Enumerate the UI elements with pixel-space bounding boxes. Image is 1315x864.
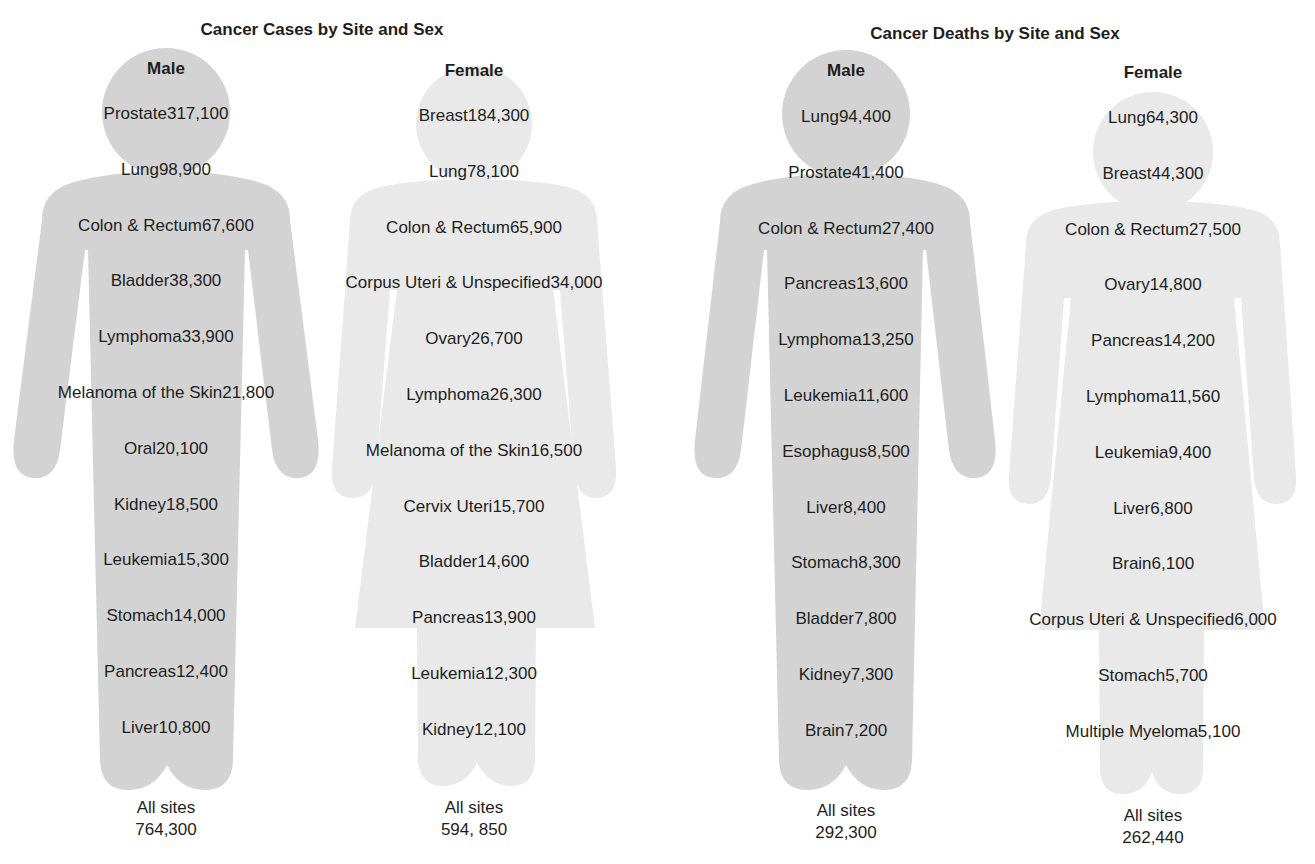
- cases-female-label: Female: [445, 61, 504, 81]
- site-value: 15,700: [492, 497, 544, 516]
- site-label: Kidney: [799, 665, 851, 684]
- site-value: 27,400: [882, 219, 934, 238]
- site-label: Bladder: [795, 609, 854, 628]
- list-item: Colon & Rectum67,600: [58, 215, 274, 271]
- site-label: Prostate: [788, 163, 851, 182]
- site-value: 41,400: [852, 163, 904, 182]
- site-label: Ovary: [425, 329, 470, 348]
- list-item: Leukemia9,400: [1029, 442, 1277, 498]
- deaths-chart-title: Cancer Deaths by Site and Sex: [870, 24, 1119, 44]
- site-label: Kidney: [422, 720, 474, 739]
- list-item: Esophagus8,500: [758, 441, 934, 497]
- list-item: Ovary26,700: [345, 328, 602, 384]
- site-value: 5,700: [1165, 666, 1208, 685]
- site-label: Lymphoma: [778, 330, 861, 349]
- list-item: Bladder38,300: [58, 270, 274, 326]
- site-value: 34,000: [551, 273, 603, 292]
- cases-male-total: All sites 764,300: [135, 797, 196, 841]
- site-label: Breast: [419, 106, 468, 125]
- site-label: Colon & Rectum: [386, 218, 510, 237]
- site-value: 13,600: [856, 274, 908, 293]
- list-item: Colon & Rectum27,500: [1029, 219, 1277, 275]
- list-item: Ovary14,800: [1029, 274, 1277, 330]
- site-label: Liver: [806, 498, 843, 517]
- site-value: 33,900: [182, 327, 234, 346]
- site-label: Prostate: [104, 104, 167, 123]
- site-value: 67,600: [202, 216, 254, 235]
- site-value: 18,500: [166, 495, 218, 514]
- list-item: Kidney18,500: [58, 494, 274, 550]
- total-value: 262,440: [1122, 827, 1183, 849]
- list-item: Stomach8,300: [758, 552, 934, 608]
- site-value: 44,300: [1152, 164, 1204, 183]
- site-value: 14,000: [174, 606, 226, 625]
- site-value: 8,300: [858, 553, 901, 572]
- site-value: 12,100: [474, 720, 526, 739]
- site-value: 21,800: [222, 383, 274, 402]
- site-label: Colon & Rectum: [758, 219, 882, 238]
- site-label: Lung: [1108, 108, 1146, 127]
- list-item: Kidney7,300: [758, 664, 934, 720]
- site-value: 14,800: [1150, 275, 1202, 294]
- total-label: All sites: [441, 797, 507, 819]
- site-value: 14,200: [1163, 331, 1215, 350]
- site-label: Brain: [805, 721, 845, 740]
- site-label: Leukemia: [784, 386, 858, 405]
- site-value: 12,300: [485, 664, 537, 683]
- site-label: Colon & Rectum: [1065, 220, 1189, 239]
- cases-chart-title: Cancer Cases by Site and Sex: [201, 20, 444, 40]
- total-value: 292,300: [815, 822, 876, 844]
- site-value: 6,800: [1150, 499, 1193, 518]
- site-value: 11,560: [1169, 387, 1220, 406]
- site-label: Liver: [122, 718, 159, 737]
- list-item: Multiple Myeloma5,100: [1029, 721, 1277, 777]
- site-label: Pancreas: [104, 662, 176, 681]
- list-item: Colon & Rectum65,900: [345, 217, 602, 273]
- list-item: Leukemia11,600: [758, 385, 934, 441]
- cases-male-list: Prostate317,100 Lung98,900 Colon & Rectu…: [58, 103, 274, 773]
- site-value: 13,900: [484, 608, 536, 627]
- site-value: 7,200: [845, 721, 888, 740]
- site-value: 94,400: [839, 107, 891, 126]
- site-value: 65,900: [510, 218, 562, 237]
- site-label: Ovary: [1104, 275, 1149, 294]
- site-label: Leukemia: [411, 664, 485, 683]
- site-label: Liver: [1113, 499, 1150, 518]
- list-item: Corpus Uteri & Unspecified34,000: [345, 272, 602, 328]
- list-item: Liver8,400: [758, 497, 934, 553]
- deaths-female-label: Female: [1124, 63, 1183, 83]
- list-item: Brain6,100: [1029, 553, 1277, 609]
- site-value: 317,100: [167, 104, 228, 123]
- site-label: Multiple Myeloma: [1066, 722, 1198, 741]
- list-item: Breast184,300: [345, 105, 602, 161]
- list-item: Liver10,800: [58, 717, 274, 773]
- list-item: Lung78,100: [345, 161, 602, 217]
- list-item: Kidney12,100: [345, 719, 602, 775]
- site-label: Lymphoma: [1086, 387, 1169, 406]
- list-item: Melanoma of the Skin21,800: [58, 382, 274, 438]
- list-item: Prostate41,400: [758, 162, 934, 218]
- list-item: Lung98,900: [58, 159, 274, 215]
- list-item: Pancreas13,600: [758, 273, 934, 329]
- site-value: 26,700: [471, 329, 523, 348]
- deaths-female-total: All sites 262,440: [1122, 805, 1183, 849]
- site-value: 20,100: [156, 439, 208, 458]
- site-label: Melanoma of the Skin: [366, 441, 530, 460]
- site-value: 27,500: [1189, 220, 1241, 239]
- deaths-male-list: Lung94,400 Prostate41,400 Colon & Rectum…: [758, 106, 934, 776]
- site-label: Lung: [801, 107, 839, 126]
- site-label: Colon & Rectum: [78, 216, 202, 235]
- list-item: Brain7,200: [758, 720, 934, 776]
- site-label: Brain: [1112, 554, 1152, 573]
- list-item: Bladder14,600: [345, 551, 602, 607]
- site-value: 98,900: [159, 160, 211, 179]
- list-item: Pancreas14,200: [1029, 330, 1277, 386]
- list-item: Stomach14,000: [58, 605, 274, 661]
- list-item: Cervix Uteri15,700: [345, 496, 602, 552]
- cases-male-label: Male: [147, 59, 185, 79]
- list-item: Melanoma of the Skin16,500: [345, 440, 602, 496]
- site-label: Lymphoma: [406, 385, 489, 404]
- site-value: 5,100: [1198, 722, 1241, 741]
- site-value: 16,500: [530, 441, 582, 460]
- list-item: Oral20,100: [58, 438, 274, 494]
